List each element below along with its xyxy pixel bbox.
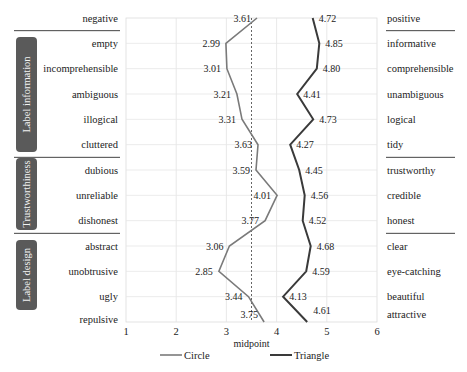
circle-value-label: 2.99 <box>202 38 220 49</box>
x-tick-label: 5 <box>324 326 329 337</box>
positive-label: attractive <box>387 309 426 320</box>
triangle-value-label: 4.72 <box>319 13 337 24</box>
triangle-value-label: 4.13 <box>289 291 307 302</box>
positive-label: logical <box>387 114 416 125</box>
circle-value-label: 3.77 <box>242 215 260 226</box>
circle-value-label: 3.59 <box>233 165 251 176</box>
positive-label: comprehensible <box>387 63 454 74</box>
negative-label: abstract <box>85 241 118 252</box>
positive-label: honest <box>387 215 414 226</box>
circle-value-label: 2.85 <box>195 266 213 277</box>
circle-value-label: 3.21 <box>213 89 231 100</box>
x-tick-label: 2 <box>174 326 179 337</box>
negative-label: repulsive <box>80 314 119 325</box>
circle-value-label: 3.75 <box>241 309 259 320</box>
triangle-value-label: 4.59 <box>312 266 330 277</box>
circle-value-label: 4.01 <box>254 190 272 201</box>
group-label: Label information <box>21 56 32 133</box>
triangle-value-label: 4.61 <box>313 305 331 316</box>
x-tick-label: 1 <box>123 326 128 337</box>
triangle-value-label: 4.68 <box>317 241 335 252</box>
circle-value-label: 3.44 <box>225 291 243 302</box>
positive-pole-labels: positiveinformativecomprehensibleunambig… <box>387 13 454 320</box>
triangle-value-label: 4.41 <box>303 89 321 100</box>
negative-label: ambiguous <box>72 89 118 100</box>
triangle-value-label: 4.52 <box>309 215 327 226</box>
triangle-value-label: 4.45 <box>305 165 323 176</box>
value-labels: 3.612.993.013.213.313.633.594.013.773.06… <box>195 13 342 320</box>
circle-value-label: 3.63 <box>235 139 253 150</box>
x-tick-label: 4 <box>274 326 280 337</box>
positive-label: beautiful <box>387 291 424 302</box>
negative-label: negative <box>82 13 118 24</box>
midpoint-label: midpoint <box>233 338 269 349</box>
group-label: Label design <box>21 247 32 302</box>
negative-label: unobtrusive <box>68 266 118 277</box>
positive-label: positive <box>387 13 421 24</box>
circle-value-label: 3.31 <box>218 114 236 125</box>
x-tick-label: 3 <box>224 326 229 337</box>
semantic-differential-chart: Label informationTrustworthinessLabel de… <box>0 0 467 372</box>
positive-label: tidy <box>387 139 404 150</box>
legend: CircleTriangle <box>160 350 330 361</box>
x-tick-label: 6 <box>374 326 379 337</box>
group-boxes: Label informationTrustworthinessLabel de… <box>16 37 37 310</box>
triangle-value-label: 4.80 <box>323 63 341 74</box>
triangle-value-label: 4.73 <box>319 114 337 125</box>
group-separators <box>14 31 455 234</box>
positive-label: credible <box>387 190 421 201</box>
negative-pole-labels: negativeemptyincomprehensibleambiguousil… <box>43 13 118 325</box>
circle-value-label: 3.01 <box>203 63 221 74</box>
negative-label: illogical <box>84 114 118 125</box>
negative-label: dishonest <box>78 215 118 226</box>
negative-label: cluttered <box>81 139 118 150</box>
positive-label: clear <box>387 241 408 252</box>
negative-label: ugly <box>99 291 118 302</box>
legend-triangle-label: Triangle <box>294 350 330 361</box>
positive-label: trustworthy <box>387 165 436 176</box>
negative-label: dubious <box>85 165 118 176</box>
triangle-value-label: 4.56 <box>311 190 329 201</box>
negative-label: unreliable <box>76 190 118 201</box>
positive-label: informative <box>387 38 436 49</box>
positive-label: eye-catching <box>387 266 441 277</box>
legend-circle-label: Circle <box>184 350 210 361</box>
negative-label: incomprehensible <box>43 63 118 74</box>
triangle-value-label: 4.27 <box>296 139 314 150</box>
circle-value-label: 3.06 <box>206 241 224 252</box>
negative-label: empty <box>92 38 119 49</box>
triangle-value-label: 4.85 <box>325 38 343 49</box>
positive-label: unambiguous <box>387 89 444 100</box>
group-label: Trustworthiness <box>21 160 32 227</box>
x-axis-ticks: 123456 <box>123 326 379 337</box>
circle-value-label: 3.61 <box>234 13 252 24</box>
